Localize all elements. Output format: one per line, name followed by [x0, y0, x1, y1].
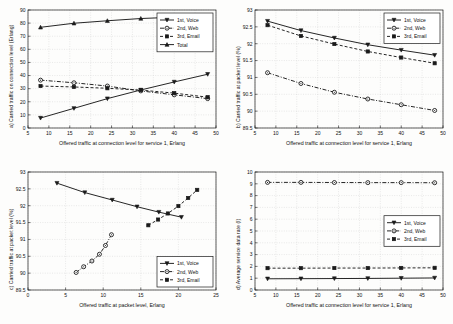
legend: 1st, Voice2nd, Web3rd, EmailTotal [157, 13, 213, 52]
svg-text:20: 20 [176, 292, 182, 298]
svg-text:5: 5 [64, 292, 67, 298]
svg-text:5: 5 [27, 130, 30, 136]
svg-text:93: 93 [247, 7, 253, 13]
svg-text:6: 6 [250, 216, 253, 222]
svg-text:20: 20 [315, 292, 321, 298]
svg-text:15: 15 [294, 292, 300, 298]
svg-text:92.5: 92.5 [243, 24, 253, 30]
svg-text:50: 50 [20, 59, 26, 65]
svg-text:91.5: 91.5 [16, 219, 26, 225]
svg-text:91: 91 [20, 236, 26, 242]
svg-text:90: 90 [247, 108, 253, 114]
subplot-c: 051015202589.59090.59191.59292.5931st, V… [0, 162, 226, 324]
svg-text:92: 92 [20, 203, 26, 209]
svg-text:45: 45 [419, 130, 425, 136]
svg-text:40: 40 [398, 130, 404, 136]
svg-text:45: 45 [192, 130, 198, 136]
svg-text:2nd, Web: 2nd, Web [177, 25, 199, 31]
svg-text:9: 9 [250, 181, 253, 187]
svg-text:2nd, Web: 2nd, Web [404, 228, 426, 234]
svg-text:7: 7 [250, 204, 253, 210]
svg-text:35: 35 [378, 292, 384, 298]
subplot-c-canvas: 051015202589.59090.59191.59292.5931st, V… [0, 162, 226, 324]
svg-text:50: 50 [440, 292, 446, 298]
svg-text:3: 3 [250, 251, 253, 257]
svg-text:15: 15 [138, 292, 144, 298]
svg-text:90.5: 90.5 [243, 91, 253, 97]
subplot-c-xlabel: Offered traffic at packet level, Erlang [28, 302, 216, 308]
svg-text:2nd, Web: 2nd, Web [177, 269, 199, 275]
svg-text:60: 60 [20, 46, 26, 52]
svg-text:89.5: 89.5 [16, 287, 26, 293]
svg-text:10: 10 [273, 130, 279, 136]
svg-text:1st, Voice: 1st, Voice [404, 220, 426, 226]
svg-text:80: 80 [20, 20, 26, 26]
svg-text:8: 8 [250, 192, 253, 198]
svg-text:5: 5 [254, 292, 257, 298]
legend: 1st, Voice2nd, Web3rd, Email [384, 216, 440, 247]
svg-text:3rd, Email: 3rd, Email [404, 33, 427, 39]
svg-text:5: 5 [250, 228, 253, 234]
svg-text:30: 30 [20, 85, 26, 91]
svg-text:93: 93 [20, 169, 26, 175]
svg-text:40: 40 [398, 292, 404, 298]
subplot-d-ylabel: d) Average service data rate (l) [235, 219, 241, 290]
svg-text:91: 91 [247, 74, 253, 80]
svg-text:30: 30 [357, 130, 363, 136]
svg-text:10: 10 [100, 292, 106, 298]
svg-text:Total: Total [177, 42, 188, 48]
svg-text:0: 0 [250, 287, 253, 293]
svg-text:25: 25 [336, 130, 342, 136]
svg-text:35: 35 [151, 130, 157, 136]
svg-text:30: 30 [130, 130, 136, 136]
svg-text:92: 92 [247, 41, 253, 47]
svg-text:1: 1 [250, 275, 253, 281]
subplot-d: 51015202530354045500123456789101st, Voic… [227, 162, 453, 324]
svg-text:20: 20 [20, 99, 26, 105]
svg-text:5: 5 [254, 130, 257, 136]
svg-text:50: 50 [213, 130, 219, 136]
svg-text:3rd, Email: 3rd, Email [404, 236, 427, 242]
svg-text:89.5: 89.5 [243, 125, 253, 131]
subplot-b-ylabel: b) Carried traffic at packet level (%) [235, 46, 241, 128]
svg-text:30: 30 [357, 292, 363, 298]
svg-text:3rd, Email: 3rd, Email [177, 33, 200, 39]
svg-text:45: 45 [419, 292, 425, 298]
svg-text:0: 0 [27, 292, 30, 298]
subplot-d-canvas: 51015202530354045500123456789101st, Voic… [227, 162, 453, 324]
svg-text:1st, Voice: 1st, Voice [177, 17, 199, 23]
svg-text:35: 35 [378, 130, 384, 136]
svg-text:70: 70 [20, 33, 26, 39]
svg-text:25: 25 [109, 130, 115, 136]
subplot-a-canvas: 510152025303540455001020304050607080901s… [0, 0, 226, 162]
subplot-a-xlabel: Offered traffic at connection level for … [28, 140, 216, 146]
svg-text:2: 2 [250, 263, 253, 269]
svg-text:25: 25 [336, 292, 342, 298]
svg-text:10: 10 [20, 112, 26, 118]
svg-text:20: 20 [315, 130, 321, 136]
legend: 1st, Voice2nd, Web3rd, Email [157, 256, 213, 287]
svg-text:1st, Voice: 1st, Voice [177, 260, 199, 266]
svg-text:10: 10 [273, 292, 279, 298]
svg-text:15: 15 [67, 130, 73, 136]
svg-text:25: 25 [213, 292, 219, 298]
svg-text:90.5: 90.5 [16, 253, 26, 259]
subplot-d-xlabel: Offered traffic at connection level for … [255, 302, 443, 308]
svg-text:90: 90 [20, 7, 26, 13]
svg-text:40: 40 [171, 130, 177, 136]
svg-text:15: 15 [294, 130, 300, 136]
subplot-c-ylabel: c) Carried traffic at packet level (%) [8, 209, 14, 290]
svg-text:1st, Voice: 1st, Voice [404, 17, 426, 23]
svg-text:0: 0 [23, 125, 26, 131]
svg-text:10: 10 [247, 169, 253, 175]
svg-text:4: 4 [250, 240, 253, 246]
subplot-a-ylabel: a) Carried traffic on connection level (… [8, 25, 14, 128]
legend: 1st, Voice2nd, Web3rd, Email [384, 13, 440, 44]
svg-text:91.5: 91.5 [243, 57, 253, 63]
svg-text:90: 90 [20, 270, 26, 276]
figure-four-subplots: 510152025303540455001020304050607080901s… [0, 0, 453, 324]
svg-text:40: 40 [20, 72, 26, 78]
svg-text:50: 50 [440, 130, 446, 136]
svg-text:10: 10 [46, 130, 52, 136]
svg-text:2nd, Web: 2nd, Web [404, 25, 426, 31]
